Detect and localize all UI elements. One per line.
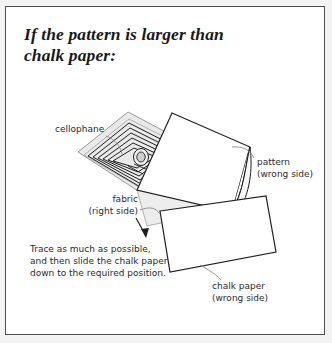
illustration-page: If the pattern is larger than chalk pape… (0, 0, 332, 343)
label-cellophane: cellophane (55, 124, 104, 136)
label-fabric: fabric (right side) (62, 194, 138, 217)
leader-chalk (200, 265, 221, 280)
instruction-text: Trace as much as possible, and then slid… (30, 243, 170, 279)
label-pattern: pattern (wrong side) (257, 157, 313, 180)
label-chalk-paper: chalk paper (wrong side) (212, 281, 268, 304)
